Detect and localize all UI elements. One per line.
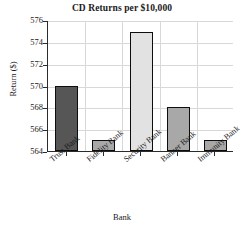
plot-area [47,21,233,152]
y-axis-tick-label: 574 [9,38,43,47]
y-axis-tick-mark [43,152,47,153]
chart-title: CD Returns per $10,000 [0,3,244,13]
bar-chart: CD Returns per $10,000 Return ($) 564566… [0,0,244,236]
y-axis-tick-label: 566 [9,125,43,134]
y-axis-tick-label: 572 [9,60,43,69]
y-axis-tick-label: 564 [9,147,43,156]
x-axis-label: Bank [0,212,244,222]
y-axis-tick-label: 576 [9,16,43,25]
gridline-horizontal [48,21,233,22]
gridline-vertical [85,21,86,151]
y-axis-tick-label: 570 [9,82,43,91]
y-axis-tick-label: 568 [9,103,43,112]
gridline-vertical [197,21,198,151]
